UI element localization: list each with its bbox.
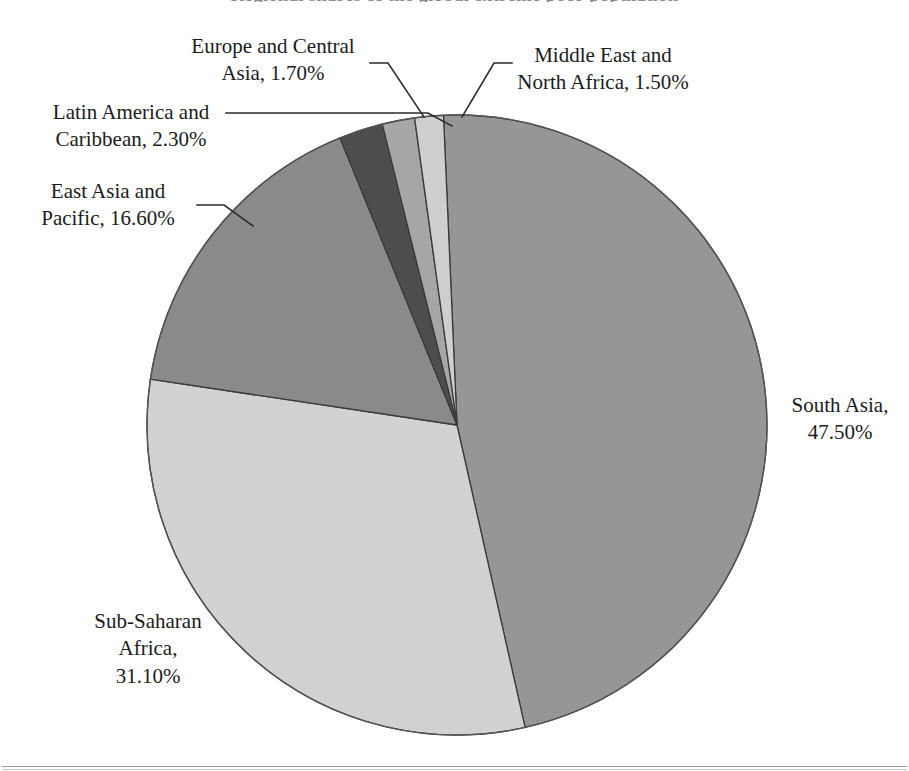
pie-chart-figure: Regional shares of the global extreme po… bbox=[0, 0, 909, 771]
figure-bottom-rule bbox=[2, 766, 907, 767]
slice-label-east-asia-and-pacific: East Asia and Pacific, 16.60% bbox=[18, 178, 198, 233]
slice-label-south-asia: South Asia, 47.50% bbox=[776, 392, 904, 447]
figure-bottom-rule-secondary bbox=[2, 769, 907, 770]
slice-label-middle-east-and-north-africa: Middle East and North Africa, 1.50% bbox=[498, 42, 708, 97]
slice-label-latin-america-and-caribbean: Latin America and Caribbean, 2.30% bbox=[36, 99, 226, 154]
slice-label-sub-saharan-africa: Sub-Saharan Africa, 31.10% bbox=[48, 608, 248, 690]
slice-label-europe-and-central-asia: Europe and Central Asia, 1.70% bbox=[166, 33, 380, 88]
